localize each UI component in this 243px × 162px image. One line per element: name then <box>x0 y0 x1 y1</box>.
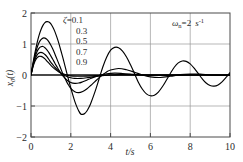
chart-background <box>0 0 243 162</box>
omega-unit-exp: -1 <box>199 17 204 24</box>
y-axis-title-tail: (t) <box>5 70 16 79</box>
x-axis-title-text: t/s <box>126 147 135 157</box>
damped-response-chart: 0246810−2−1012 x0(t) t/s ζ=0.1 0.3 0.5 0… <box>0 0 243 162</box>
y-axis-title: x0(t) <box>5 70 16 87</box>
y-tick-label: −2 <box>16 132 27 143</box>
legend-entry-1: 0.3 <box>76 26 88 36</box>
y-tick-label: 0 <box>22 70 27 81</box>
x-tick-label: 8 <box>188 141 193 152</box>
y-tick-label: −1 <box>16 101 27 112</box>
legend-entry-3: 0.7 <box>76 47 88 57</box>
x-tick-label: 4 <box>108 141 113 152</box>
x-axis-title: t/s <box>126 147 135 157</box>
svg-text:x0(t): x0(t) <box>5 70 16 87</box>
x-tick-label: 10 <box>225 141 235 152</box>
x-tick-label: 2 <box>68 141 73 152</box>
legend-entry-4: 0.9 <box>76 57 88 67</box>
omega-value: =2 <box>182 18 192 28</box>
legend-header: ζ=0.1 <box>63 15 83 25</box>
y-tick-label: 2 <box>22 8 27 19</box>
legend-entry-0: 0.1 <box>72 15 83 25</box>
x-tick-label: 0 <box>29 141 34 152</box>
y-tick-label: 1 <box>22 39 27 50</box>
legend-entry-2: 0.5 <box>76 36 88 46</box>
x-tick-label: 6 <box>148 141 153 152</box>
figure-container: 0246810−2−1012 x0(t) t/s ζ=0.1 0.3 0.5 0… <box>0 0 243 162</box>
